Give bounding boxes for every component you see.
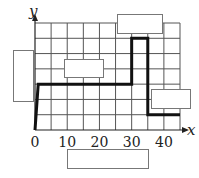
tick-labels: 010203040 bbox=[31, 134, 173, 150]
x-tick-label: 30 bbox=[123, 134, 141, 150]
y-axis-label-box bbox=[13, 50, 34, 102]
x-axis-label: x bbox=[187, 121, 196, 139]
x-axis-label-box bbox=[67, 149, 149, 169]
x-tick-label: 0 bbox=[31, 134, 40, 150]
x-tick-label: 10 bbox=[58, 134, 76, 150]
right-label-box bbox=[151, 89, 191, 109]
top-label-box bbox=[117, 14, 163, 34]
x-tick-label: 20 bbox=[91, 134, 109, 150]
x-tick-label: 40 bbox=[155, 134, 173, 150]
y-axis-label: y bbox=[28, 2, 38, 20]
middle-label-box bbox=[64, 59, 104, 78]
